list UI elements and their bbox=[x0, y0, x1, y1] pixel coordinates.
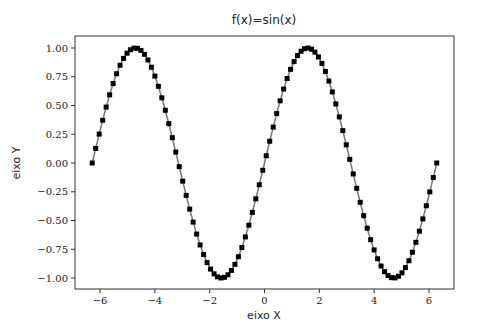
square-marker bbox=[288, 67, 293, 72]
square-marker bbox=[236, 254, 241, 259]
square-marker bbox=[406, 258, 411, 263]
square-marker bbox=[156, 84, 161, 89]
square-marker bbox=[434, 161, 439, 166]
square-marker bbox=[420, 216, 425, 221]
square-marker bbox=[323, 69, 328, 74]
square-marker bbox=[351, 171, 356, 176]
square-marker bbox=[379, 264, 384, 269]
square-marker bbox=[257, 182, 262, 187]
square-marker bbox=[159, 95, 164, 100]
x-tick-label: −4 bbox=[147, 295, 162, 306]
square-marker bbox=[194, 232, 199, 237]
chart: f(x)=sin(x) −6−4−20246 1.000.750.500.250… bbox=[0, 0, 478, 335]
square-marker bbox=[170, 135, 175, 140]
square-marker bbox=[312, 50, 317, 55]
x-tick-label: −2 bbox=[202, 295, 217, 306]
square-marker bbox=[365, 226, 370, 231]
square-marker bbox=[319, 61, 324, 66]
y-tick-label: 0.50 bbox=[46, 100, 68, 111]
square-marker bbox=[347, 157, 352, 162]
chart-title: f(x)=sin(x) bbox=[232, 13, 296, 27]
square-marker bbox=[173, 150, 178, 155]
square-marker bbox=[399, 270, 404, 275]
y-tick-label: −0.25 bbox=[37, 186, 68, 197]
square-marker bbox=[417, 229, 422, 234]
square-marker bbox=[243, 234, 248, 239]
x-tick-label: 0 bbox=[261, 295, 267, 306]
square-marker bbox=[281, 87, 286, 92]
square-marker bbox=[278, 98, 283, 103]
square-marker bbox=[93, 146, 98, 151]
square-marker bbox=[205, 260, 210, 265]
square-marker bbox=[285, 76, 290, 81]
square-marker bbox=[413, 240, 418, 245]
square-marker bbox=[90, 161, 95, 166]
square-marker bbox=[201, 252, 206, 257]
y-axis-ticks: 1.000.750.500.250.00−0.25−0.50−0.75−1.00 bbox=[37, 43, 75, 284]
square-marker bbox=[121, 56, 126, 61]
y-tick-label: −0.50 bbox=[37, 215, 68, 226]
square-marker bbox=[239, 245, 244, 250]
square-marker bbox=[97, 132, 102, 137]
square-marker bbox=[100, 118, 105, 123]
y-tick-label: −1.00 bbox=[37, 273, 68, 284]
square-marker bbox=[295, 53, 300, 58]
x-tick-label: 6 bbox=[426, 295, 432, 306]
x-axis-label: eixo X bbox=[247, 309, 281, 322]
square-marker bbox=[118, 63, 123, 68]
square-marker bbox=[354, 186, 359, 191]
square-marker bbox=[326, 79, 331, 84]
square-marker bbox=[410, 250, 415, 255]
square-marker bbox=[260, 168, 265, 173]
square-marker bbox=[198, 242, 203, 247]
y-tick-label: 0.25 bbox=[46, 129, 68, 140]
square-marker bbox=[424, 203, 429, 208]
square-marker bbox=[340, 128, 345, 133]
square-marker bbox=[142, 52, 147, 57]
square-marker bbox=[274, 111, 279, 116]
square-marker bbox=[107, 92, 112, 97]
y-tick-label: −0.75 bbox=[37, 244, 68, 255]
square-marker bbox=[250, 210, 255, 215]
x-axis-ticks: −6−4−20246 bbox=[93, 289, 433, 306]
square-marker bbox=[163, 108, 168, 113]
y-tick-label: 1.00 bbox=[46, 43, 68, 54]
square-marker bbox=[229, 268, 234, 273]
square-marker bbox=[337, 114, 342, 119]
square-marker bbox=[330, 89, 335, 94]
square-marker bbox=[152, 74, 157, 79]
square-marker bbox=[271, 125, 276, 130]
square-marker bbox=[208, 267, 213, 272]
x-tick-label: −6 bbox=[93, 295, 108, 306]
square-marker bbox=[177, 164, 182, 169]
square-marker bbox=[191, 220, 196, 225]
square-marker bbox=[431, 175, 436, 180]
x-tick-label: 2 bbox=[316, 295, 322, 306]
square-marker bbox=[145, 57, 150, 62]
square-marker bbox=[333, 101, 338, 106]
square-marker bbox=[358, 200, 363, 205]
square-marker bbox=[184, 193, 189, 198]
square-marker bbox=[316, 54, 321, 59]
square-marker bbox=[149, 65, 154, 70]
square-marker bbox=[104, 105, 109, 110]
series-line bbox=[92, 48, 437, 278]
y-tick-label: 0.75 bbox=[46, 71, 68, 82]
square-marker bbox=[427, 189, 432, 194]
plot-area bbox=[90, 46, 440, 281]
square-marker bbox=[344, 142, 349, 147]
square-marker bbox=[114, 71, 119, 76]
square-marker bbox=[253, 196, 258, 201]
square-marker bbox=[292, 59, 297, 64]
square-marker bbox=[111, 81, 116, 86]
square-marker bbox=[180, 179, 185, 184]
square-marker bbox=[368, 237, 373, 242]
y-tick-label: 0.00 bbox=[46, 158, 68, 169]
x-tick-label: 4 bbox=[371, 295, 377, 306]
square-marker bbox=[246, 223, 251, 228]
square-marker bbox=[225, 272, 230, 277]
y-axis-label: eixo Y bbox=[10, 146, 23, 179]
square-marker bbox=[166, 121, 171, 126]
square-marker bbox=[232, 262, 237, 267]
square-marker bbox=[372, 247, 377, 252]
